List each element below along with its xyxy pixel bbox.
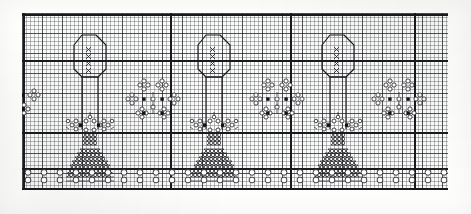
motif-flower-edge-left xyxy=(22,89,40,115)
motif-lamp-1 xyxy=(66,35,114,181)
graph-paper-grid xyxy=(22,13,448,190)
motif-flower-1 xyxy=(126,79,180,119)
motif-flower-2 xyxy=(250,79,304,119)
chart-title: Cross-stitch pattern chart xyxy=(0,0,1,1)
motif-lamp-2 xyxy=(190,35,238,181)
pattern-chart-page: Cross-stitch pattern chart xyxy=(0,0,471,214)
motif-flower-3 xyxy=(372,79,426,119)
motif-layer xyxy=(22,13,448,190)
motif-lamp-3 xyxy=(314,35,362,181)
